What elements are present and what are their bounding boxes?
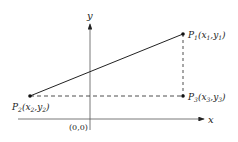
point-p2	[28, 94, 32, 98]
point-p2-label: P2(x2,y2)	[11, 102, 50, 113]
point-p1	[181, 32, 185, 36]
coordinate-diagram: y x (0,0) P1(x1,y1) P2(x2,y2) P3(x3,y3)	[0, 0, 238, 142]
origin-label: (0,0)	[69, 123, 88, 132]
point-p1-label: P1(x1,y1)	[187, 30, 226, 41]
x-axis-label: x	[208, 114, 214, 125]
y-axis-label: y	[86, 10, 93, 21]
segment-p2-p1	[30, 34, 183, 96]
point-p3-label: P3(x3,y3)	[187, 92, 226, 103]
point-p3	[181, 94, 185, 98]
